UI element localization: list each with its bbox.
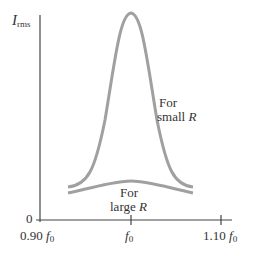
x-tick-mid-label: f0 bbox=[125, 229, 133, 246]
large-r-label-line1: For bbox=[120, 186, 138, 199]
x-tick-left-label: 0.90 f0 bbox=[20, 229, 54, 246]
large-r-label-line2: large R bbox=[110, 200, 147, 213]
small-r-label-line2: small R bbox=[157, 110, 196, 123]
x-tick-right-label: 1.10 f0 bbox=[203, 229, 237, 246]
y-axis-label: Irms bbox=[12, 14, 31, 31]
zero-label: 0 bbox=[26, 212, 33, 225]
small-r-label-line1: For bbox=[159, 96, 177, 109]
resonance-plot bbox=[0, 0, 253, 256]
